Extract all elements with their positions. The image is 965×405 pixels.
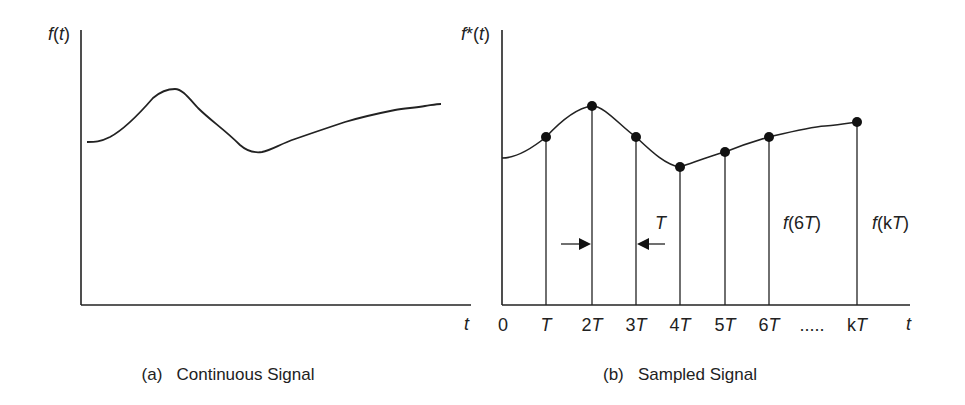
annotation-fkT: f(kT) <box>872 213 909 233</box>
arrow-right-icon <box>579 238 591 250</box>
tick-label: 3T <box>625 315 648 335</box>
tick-label: kT <box>847 315 869 335</box>
tick-ellipsis: ..... <box>799 315 824 335</box>
tick-label: 0 <box>498 315 508 335</box>
caption-b: (b) Sampled Signal <box>603 365 757 384</box>
caption-a: (a) Continuous Signal <box>142 365 315 384</box>
continuous-curve <box>87 89 441 152</box>
tick-labels: 0 T 2T 3T 4T 5T 6T ..... kT <box>498 315 869 335</box>
panel-continuous: f(t) t (a) Continuous Signal <box>48 24 471 384</box>
figure: f(t) t (a) Continuous Signal <box>0 0 965 405</box>
tick-label: T <box>541 315 554 335</box>
x-axis-label: t <box>906 314 912 334</box>
sampled-envelope-curve <box>502 106 857 167</box>
tick-label: 4T <box>669 315 692 335</box>
x-axis-label: t <box>464 314 470 334</box>
tick-label: 5T <box>714 315 737 335</box>
tick-label: 2T <box>581 315 604 335</box>
y-axis-label: f(t) <box>48 24 70 44</box>
tick-label: 6T <box>758 315 781 335</box>
y-axis-label: f*(t) <box>461 24 490 44</box>
period-arrows <box>561 238 665 250</box>
sample-points <box>541 101 862 172</box>
panel-sampled: T f(6T) f(kT) f*(t) t 0 T 2T 3T 4T 5T 6T… <box>461 24 912 384</box>
annotation-f6T: f(6T) <box>783 213 821 233</box>
period-label: T <box>655 213 668 233</box>
sample-stems <box>546 106 857 305</box>
arrow-left-icon <box>637 238 649 250</box>
